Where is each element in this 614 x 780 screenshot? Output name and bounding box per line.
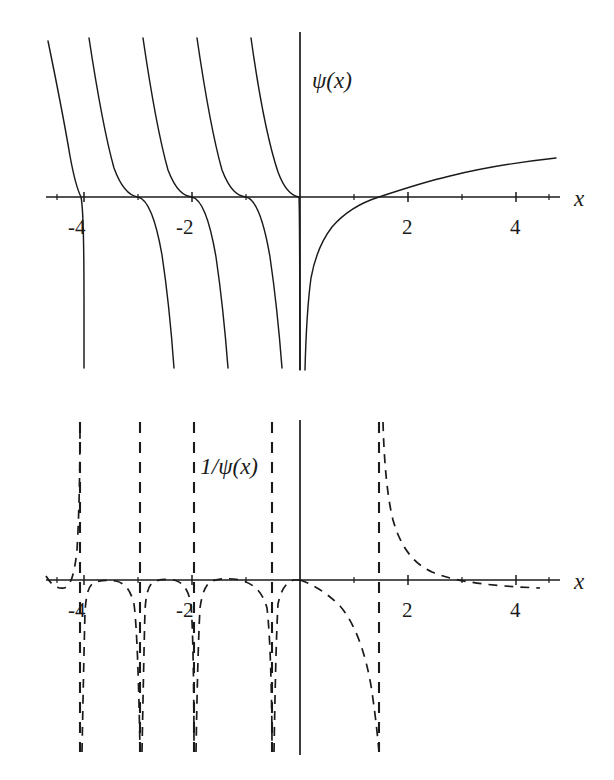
psi-branch-neg1-zero: [251, 38, 300, 370]
figure-caption: [6, 770, 606, 780]
recip-branch-c: [196, 579, 272, 752]
tick-label-neg2-top: -2: [176, 215, 194, 239]
recip-branch-right: [383, 422, 540, 588]
x-axis-label-top: x: [573, 186, 585, 211]
tick-label-neg4-top: -4: [68, 215, 86, 239]
reciprocal-psi-function-label: 1/ψ(x): [200, 454, 258, 479]
recip-branch-far-left: [46, 424, 80, 588]
psi-branch-principal: [305, 158, 556, 370]
psi-branch-neg2-neg1: [197, 38, 282, 368]
tick-label-4-bottom: 4: [510, 598, 521, 622]
tick-label-neg4-bottom: -4: [68, 598, 86, 622]
x-axis-label-bottom: x: [573, 569, 585, 594]
tick-label-neg2-bottom: -2: [176, 598, 194, 622]
psi-branch-neg4-neg3: [89, 38, 174, 368]
psi-function-label: ψ(x): [312, 68, 352, 93]
recip-branch-a: [82, 580, 140, 752]
figure-container: ψ(x) x -4 -2 2 4: [0, 0, 614, 780]
tick-label-2-top: 2: [402, 215, 413, 239]
recip-branch-d: [274, 580, 300, 752]
recip-branch-zero-to-asymptote: [300, 580, 379, 752]
psi-branch-left-of-neg4: [48, 41, 84, 368]
psi-branch-neg3-neg2: [143, 38, 228, 368]
tick-label-4-top: 4: [510, 215, 521, 239]
reciprocal-psi-plot-svg: 1/ψ(x) x -4 -2 2 4: [0, 400, 614, 770]
chart-panel-reciprocal-psi: 1/ψ(x) x -4 -2 2 4: [0, 400, 614, 770]
psi-plot-svg: ψ(x) x -4 -2 2 4: [0, 10, 614, 380]
tick-label-2-bottom: 2: [402, 598, 413, 622]
chart-panel-psi: ψ(x) x -4 -2 2 4: [0, 10, 614, 380]
